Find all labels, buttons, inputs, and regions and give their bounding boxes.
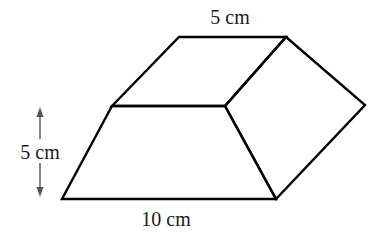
front-face — [62, 106, 276, 199]
top-edge-label: 5 cm — [210, 6, 250, 28]
top-face — [112, 37, 286, 106]
height-label: 5 cm — [20, 141, 60, 163]
prism-diagram: 5 cm 5 cm 10 cm — [0, 0, 378, 246]
right-face — [225, 37, 365, 199]
bottom-edge-label: 10 cm — [141, 208, 191, 230]
